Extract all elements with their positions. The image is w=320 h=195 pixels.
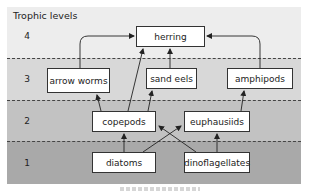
node-dinoflagellates: dinoflagellates xyxy=(184,152,250,173)
node-sand-eels: sand eels xyxy=(146,68,197,89)
node-herring: herring xyxy=(136,26,205,47)
node-arrow-worms: arrow worms xyxy=(47,68,110,93)
faint-caption-artifact xyxy=(120,187,200,191)
node-euphausiids: euphausiids xyxy=(184,111,250,132)
node-diatoms: diatoms xyxy=(92,152,156,173)
node-amphipods: amphipods xyxy=(227,68,293,89)
node-copepods: copepods xyxy=(92,111,156,132)
